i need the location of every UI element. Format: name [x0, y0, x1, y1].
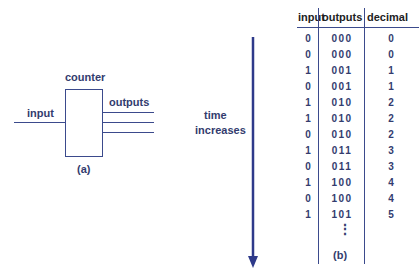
table-row: 10102	[298, 97, 419, 112]
table-row: 00000	[298, 33, 419, 48]
header-decimal: decimal	[367, 11, 408, 23]
header-input: input	[298, 11, 325, 23]
header-outputs: outputs	[322, 11, 362, 23]
table-row: 11004	[298, 177, 419, 192]
table-row: 10102	[298, 113, 419, 128]
header-divider	[297, 27, 419, 28]
table-row: 10011	[298, 65, 419, 80]
ellipsis: ⋮	[338, 222, 352, 236]
table-row: 11015	[298, 209, 419, 224]
table-row: 00113	[298, 161, 419, 176]
table-row: 00102	[298, 129, 419, 144]
table-row: 00011	[298, 81, 419, 96]
caption-b: (b)	[333, 249, 347, 261]
table-row: 10113	[298, 145, 419, 160]
table-row: 00000	[298, 49, 419, 64]
table-row: 01004	[298, 193, 419, 208]
